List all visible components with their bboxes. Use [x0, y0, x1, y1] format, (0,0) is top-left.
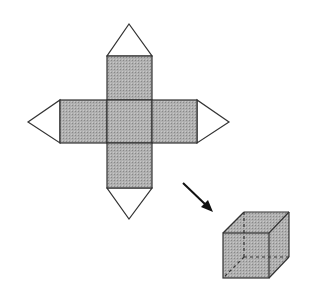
- face-center: [107, 100, 152, 143]
- tab-right: [197, 100, 229, 143]
- tab-bottom: [107, 188, 152, 219]
- arrow-icon: [183, 183, 213, 212]
- face-left: [60, 100, 107, 143]
- cube-net-diagram: [0, 0, 318, 300]
- cube-net: [28, 24, 229, 219]
- tab-left: [28, 100, 60, 143]
- tab-top: [107, 24, 152, 56]
- face-bottom: [107, 143, 152, 188]
- face-right: [152, 100, 197, 143]
- face-top: [107, 56, 152, 100]
- cube: [223, 212, 289, 278]
